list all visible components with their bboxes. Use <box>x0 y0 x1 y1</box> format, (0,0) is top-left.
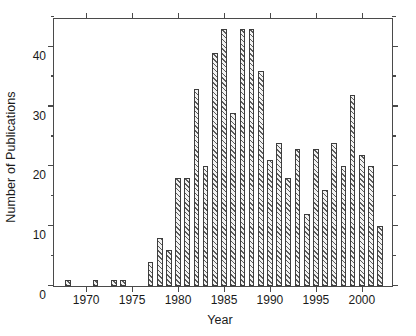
y-tick-major <box>48 225 54 226</box>
bar <box>157 238 163 286</box>
x-tick-major <box>316 286 317 292</box>
bar <box>368 166 374 286</box>
bar <box>267 160 273 286</box>
bar <box>221 29 227 286</box>
y-tick-minor <box>392 255 396 256</box>
bar <box>304 214 310 286</box>
x-tick-major <box>362 13 363 19</box>
x-tick-major <box>316 13 317 19</box>
x-tick-major <box>178 286 179 292</box>
y-tick-major <box>48 46 54 47</box>
y-axis-title: Number of Publications <box>0 12 22 302</box>
bar <box>184 178 190 286</box>
x-tick-major <box>86 286 87 292</box>
bar <box>120 280 126 286</box>
bar <box>359 155 365 287</box>
bar <box>295 149 301 286</box>
x-tick-major <box>362 286 363 292</box>
bar <box>148 262 154 286</box>
y-tick-minor <box>51 255 55 256</box>
bar <box>212 53 218 286</box>
plot-area: 010203040 1970197519801985199019952000 <box>53 18 393 287</box>
y-tick-major <box>48 165 54 166</box>
x-tick-major <box>270 286 271 292</box>
x-tick-label: 2000 <box>348 293 375 307</box>
y-tick-major <box>48 285 54 286</box>
x-tick-major <box>132 13 133 19</box>
bar <box>341 166 347 286</box>
bar <box>240 29 246 286</box>
bar <box>230 113 236 286</box>
bar <box>276 143 282 286</box>
x-tick-major <box>270 13 271 19</box>
bar <box>322 190 328 286</box>
bar <box>258 71 264 286</box>
x-tick-label: 1970 <box>73 293 100 307</box>
x-tick-major <box>224 286 225 292</box>
bar <box>93 280 99 286</box>
x-tick-major <box>132 286 133 292</box>
bar <box>285 178 291 286</box>
x-tick-major <box>178 13 179 19</box>
y-tick-minor <box>51 75 55 76</box>
bar <box>203 166 209 286</box>
x-tick-label: 1980 <box>165 293 192 307</box>
x-axis-title: Year <box>46 312 394 328</box>
x-tick-label: 1990 <box>257 293 284 307</box>
y-tick-minor <box>51 16 55 17</box>
bar <box>331 143 337 286</box>
bar <box>377 226 383 286</box>
y-tick-major <box>392 225 398 226</box>
x-tick-major <box>86 13 87 19</box>
bar <box>175 178 181 286</box>
y-tick-minor <box>392 195 396 196</box>
bar <box>111 280 117 286</box>
y-tick-major <box>392 165 398 166</box>
y-tick-minor <box>392 135 396 136</box>
y-tick-minor <box>51 195 55 196</box>
y-tick-major <box>392 285 398 286</box>
bar <box>249 29 255 286</box>
bar <box>194 89 200 286</box>
y-tick-minor <box>392 75 396 76</box>
y-tick-major <box>392 46 398 47</box>
x-tick-major <box>224 13 225 19</box>
y-tick-major <box>48 105 54 106</box>
y-tick-minor <box>51 135 55 136</box>
bar <box>350 95 356 286</box>
y-tick-major <box>392 105 398 106</box>
x-tick-label: 1985 <box>211 293 238 307</box>
x-tick-label: 1995 <box>303 293 330 307</box>
bar <box>65 280 71 286</box>
publications-per-year-bar-chart: Number of Publications Year 010203040 19… <box>0 0 416 336</box>
x-tick-label: 1975 <box>119 293 146 307</box>
bar <box>166 250 172 286</box>
y-tick-minor <box>392 16 396 17</box>
bar <box>313 149 319 286</box>
